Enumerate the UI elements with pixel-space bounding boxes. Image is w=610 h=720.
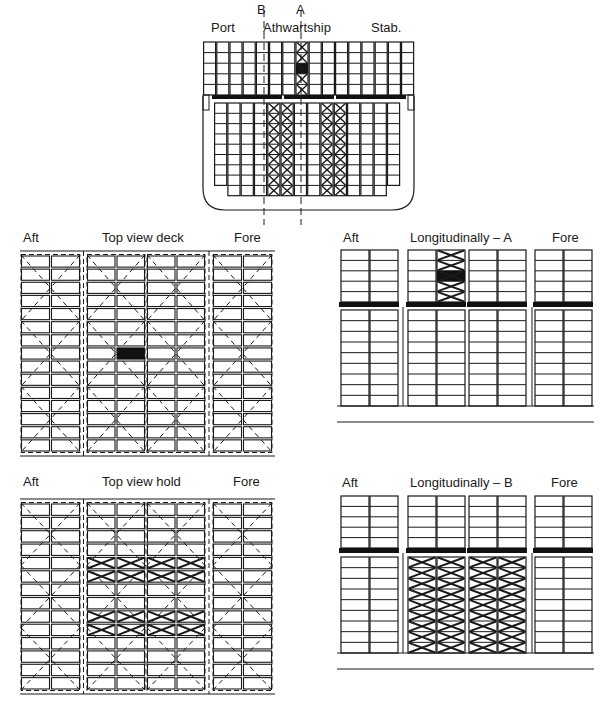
container-top xyxy=(214,440,242,451)
container-top xyxy=(214,374,242,385)
container-top xyxy=(52,440,80,451)
lashing-frame xyxy=(21,255,80,453)
highlighted-container xyxy=(117,348,145,359)
container-top xyxy=(117,651,145,662)
container-top xyxy=(177,440,205,451)
container-top xyxy=(148,256,176,267)
container-top xyxy=(52,531,80,542)
container-top xyxy=(244,309,272,320)
container-top xyxy=(148,504,176,515)
container-top xyxy=(117,531,145,542)
container-top xyxy=(88,584,116,595)
container-top xyxy=(244,678,272,689)
container-stack xyxy=(370,557,398,653)
container-top xyxy=(244,348,272,359)
container-top xyxy=(88,414,116,425)
container-top xyxy=(214,504,242,515)
container-stack xyxy=(374,103,386,196)
container-top xyxy=(88,531,116,542)
container-top xyxy=(52,664,80,675)
container-top xyxy=(177,309,205,320)
container-stack xyxy=(498,310,526,406)
container-top xyxy=(22,504,50,515)
container-stack xyxy=(535,496,563,548)
hatch-cover xyxy=(406,302,466,307)
container-top xyxy=(214,517,242,528)
container-top xyxy=(148,517,176,528)
hatch-cover xyxy=(467,548,527,553)
lashing-frame xyxy=(213,255,272,453)
container-top xyxy=(117,440,145,451)
container-top xyxy=(52,256,80,267)
container-top xyxy=(214,557,242,568)
container-top xyxy=(88,322,116,333)
container-top xyxy=(244,557,272,568)
container-stack xyxy=(469,250,497,302)
top-view-hold-panel xyxy=(20,499,275,694)
container-stack xyxy=(283,42,295,95)
container-top xyxy=(88,374,116,385)
container-top xyxy=(117,664,145,675)
container-top xyxy=(244,598,272,609)
container-top xyxy=(148,651,176,662)
container-top xyxy=(177,374,205,385)
container-top xyxy=(177,282,205,293)
lashing-frame xyxy=(147,255,205,453)
container-stack xyxy=(408,496,436,548)
container-top xyxy=(244,504,272,515)
container-top xyxy=(22,387,50,398)
container-top xyxy=(22,678,50,689)
container-top xyxy=(177,414,205,425)
container-top xyxy=(214,598,242,609)
container-stack xyxy=(322,42,334,95)
hatch-cover xyxy=(533,548,593,553)
container-top xyxy=(52,309,80,320)
container-stack xyxy=(256,42,268,95)
container-top xyxy=(52,598,80,609)
container-stack xyxy=(243,42,255,95)
container-stack xyxy=(535,250,563,302)
container-top xyxy=(88,440,116,451)
container-top xyxy=(22,414,50,425)
container-stack xyxy=(498,250,526,302)
container-top xyxy=(244,440,272,451)
container-top xyxy=(52,387,80,398)
container-top xyxy=(52,584,80,595)
container-top xyxy=(177,322,205,333)
container-top xyxy=(148,348,176,359)
hatch-cover xyxy=(339,548,399,553)
container-top xyxy=(148,309,176,320)
container-top xyxy=(52,678,80,689)
container-stack xyxy=(437,496,465,548)
container-stack xyxy=(370,310,398,406)
container-top xyxy=(214,309,242,320)
container-stack xyxy=(228,103,240,196)
container-top xyxy=(88,598,116,609)
container-top xyxy=(52,374,80,385)
container-top xyxy=(214,282,242,293)
container-stack xyxy=(255,103,267,196)
container-top xyxy=(52,348,80,359)
container-stack xyxy=(408,310,436,406)
container-top xyxy=(214,387,242,398)
container-stack xyxy=(336,42,348,95)
container-stack xyxy=(309,42,321,95)
container-stack xyxy=(241,103,253,196)
container-top xyxy=(214,531,242,542)
container-top xyxy=(52,414,80,425)
container-top xyxy=(214,414,242,425)
container-top xyxy=(148,584,176,595)
container-top xyxy=(244,531,272,542)
longitudinal-b-panel xyxy=(337,496,594,669)
container-top xyxy=(244,664,272,675)
container-top xyxy=(52,651,80,662)
coaming-stab xyxy=(408,95,414,110)
container-top xyxy=(22,624,50,635)
container-top xyxy=(148,678,176,689)
container-stack xyxy=(535,557,563,653)
container-top xyxy=(88,256,116,267)
container-top xyxy=(117,584,145,595)
container-top xyxy=(88,664,116,675)
container-stack xyxy=(564,557,592,653)
container-stack xyxy=(388,42,400,95)
